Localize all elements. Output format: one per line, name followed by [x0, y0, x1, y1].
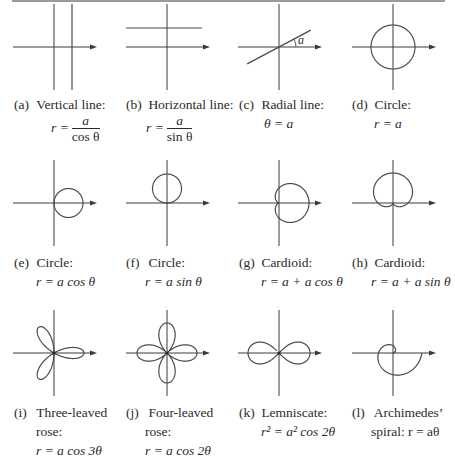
- caption-equation: r = a: [352, 114, 411, 133]
- curve-spiral: [378, 345, 422, 376]
- axis-arrow-icon: [315, 45, 322, 50]
- caption-name: Circle:: [148, 255, 185, 270]
- axis-arrow-icon: [90, 201, 97, 206]
- caption-equation: r = a cos 2θ: [126, 441, 213, 459]
- caption-label: (k): [239, 403, 258, 422]
- panel-g: [238, 160, 322, 246]
- angle-label: a: [298, 33, 304, 47]
- angle-arc: [294, 39, 296, 47]
- panel-i: [13, 310, 97, 396]
- caption-label: (d): [352, 95, 371, 114]
- caption-equation: r = a + a sin θ: [352, 272, 451, 291]
- axis-arrow-icon: [90, 351, 97, 356]
- panel-k: [238, 310, 322, 396]
- axis-arrow-icon: [315, 201, 322, 206]
- caption-lhs: r =: [51, 120, 69, 135]
- fraction-numerator: a: [72, 114, 100, 129]
- fraction-numerator: a: [167, 114, 193, 129]
- caption-lhs: r =: [146, 120, 164, 135]
- fraction-denominator: cos θ: [72, 129, 100, 144]
- caption-c: (c) Radial line: θ = a: [239, 95, 324, 133]
- caption-e: (e) Circle: r = a cos θ: [14, 253, 95, 291]
- caption-d: (d) Circle: r = a: [352, 95, 411, 133]
- caption-label: (a): [14, 95, 33, 114]
- caption-name: Cardioid:: [374, 255, 425, 270]
- caption-equation: r = a + a cos θ: [239, 272, 343, 291]
- caption-label: (l): [352, 403, 371, 422]
- caption-equation: spiral: r = aθ: [352, 422, 443, 441]
- panel-a: [13, 4, 97, 90]
- caption-equation: r = a cos 3θ: [14, 441, 107, 459]
- panel-d: [352, 4, 436, 90]
- origin-dot: [277, 351, 280, 354]
- panel-b: [126, 4, 210, 90]
- caption-h: (h) Cardioid: r = a + a sin θ: [352, 253, 451, 291]
- caption-label: (g): [239, 253, 258, 272]
- axis-arrow-icon: [90, 45, 97, 50]
- caption-name: Lemniscate:: [261, 405, 327, 420]
- caption-label: (f): [126, 253, 145, 272]
- panel-j: [126, 310, 210, 396]
- caption-label: (e): [14, 253, 33, 272]
- caption-f: (f) Circle: r = a sin θ: [126, 253, 202, 291]
- axis-arrow-icon: [203, 45, 210, 50]
- caption-name: Cardioid:: [261, 255, 312, 270]
- caption-name: Circle:: [36, 255, 73, 270]
- caption-k: (k) Lemniscate: r² = a² cos 2θ: [239, 403, 335, 441]
- caption-equation: r = a sin θ: [126, 272, 202, 291]
- caption-name: Four-leaved: [148, 405, 213, 420]
- fraction-denominator: sin θ: [167, 129, 193, 144]
- caption-g: (g) Cardioid: r = a + a cos θ: [239, 253, 343, 291]
- caption-equation: r² = a² cos 2θ: [239, 422, 335, 441]
- caption-name: Circle:: [374, 97, 411, 112]
- caption-name-cont: rose:: [126, 422, 213, 441]
- caption-a: (a) Vertical line: r =acos θ: [14, 95, 106, 144]
- caption-name: Radial line:: [261, 97, 324, 112]
- caption-l: (l) Archimedes’ spiral: r = aθ: [352, 403, 443, 441]
- caption-equation: θ = a: [239, 114, 324, 133]
- caption-label: (b): [126, 95, 145, 114]
- caption-name: Vertical line:: [36, 97, 105, 112]
- panel-f: [126, 160, 210, 246]
- caption-b: (b) Horizontal line: r =asin θ: [126, 95, 233, 144]
- caption-label: (j): [126, 403, 145, 422]
- caption-equation: r = a cos θ: [14, 272, 95, 291]
- origin-dot: [52, 351, 55, 354]
- caption-name: Archimedes’: [374, 405, 444, 420]
- axis-arrow-icon: [429, 201, 436, 206]
- caption-label: (c): [239, 95, 258, 114]
- panel-c: a: [238, 4, 322, 90]
- panel-e: [13, 160, 97, 246]
- panel-l: [352, 310, 436, 396]
- axis-arrow-icon: [315, 351, 322, 356]
- caption-name-cont: rose:: [14, 422, 107, 441]
- caption-name: Three-leaved: [36, 405, 107, 420]
- panel-h: [352, 160, 436, 246]
- origin-dot: [165, 351, 168, 354]
- axis-arrow-icon: [203, 351, 210, 356]
- caption-j: (j) Four-leaved rose: r = a cos 2θ: [126, 403, 213, 459]
- axis-arrow-icon: [203, 201, 210, 206]
- caption-i: (i) Three-leaved rose: r = a cos 3θ: [14, 403, 107, 459]
- axis-arrow-icon: [429, 45, 436, 50]
- axis-arrow-icon: [429, 351, 436, 356]
- caption-label: (i): [14, 403, 33, 422]
- caption-label: (h): [352, 253, 371, 272]
- caption-name: Horizontal line:: [148, 97, 233, 112]
